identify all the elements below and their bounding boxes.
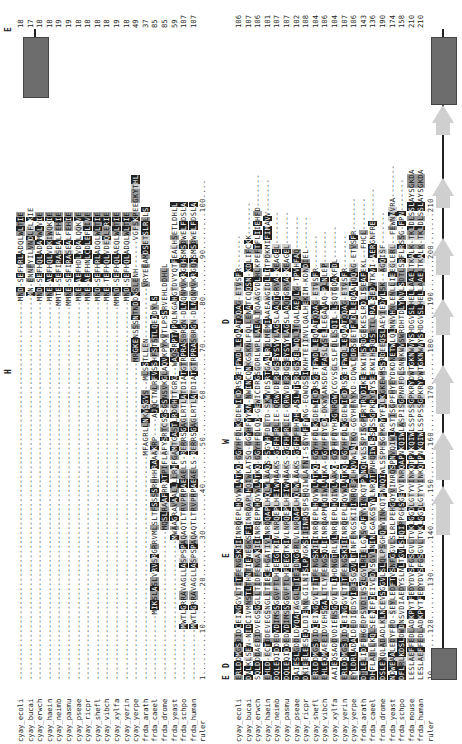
sequence-end-position: 19 (64, 2, 74, 28)
sequence-residues: ----------------------------------------… (93, 212, 103, 680)
sequence-row: frda_humanLESLAEFFEDLADKPYTFEDYDVSFGSGVL… (416, 0, 426, 744)
sequence-label: cyay_pasmu (64, 684, 74, 742)
sequence-residues: ----------------------------------------… (16, 212, 26, 680)
sequence-residues: EYLDRLADALDEDIGDSYIDESGGVLTINFENGSKIIINR… (349, 198, 359, 681)
sequence-row: cyay_haein------------------------------… (45, 0, 55, 744)
sequence-label: cyay_yerpe (131, 684, 141, 742)
sequence-residues: DAIESLGDDLDYQATAGGLLTIEFDNGGRLVLNRQAPLHQ… (292, 216, 302, 680)
sequence-label: frda_caeel (368, 684, 378, 742)
annotation-marker: D (222, 663, 231, 668)
sequence-label: frda_yeast (170, 684, 180, 742)
strand-arrow-head (432, 486, 454, 504)
sequence-label: frda_human (189, 684, 199, 742)
sequence-row: cyay_erwchSQLDDDAEDIDVEGSGGLLTIDFENGAKII… (253, 0, 263, 744)
sequence-end-position: 18 (16, 2, 26, 28)
sequence-residues: DSLEKQLADADLKLNCEVSGGVLSLQLPSGHQWVINKQTP… (378, 211, 388, 680)
sequence-residues: DTLELIDFDHGFDPSVDIVSGLGVLRIELGNSGAFYVINK… (359, 198, 369, 680)
residue-annotations: E D E W D (222, 0, 234, 744)
sequence-label: cyay_vibch (320, 684, 330, 742)
sequence-label: cyay_haein (263, 684, 273, 742)
annotation-marker: H (4, 369, 13, 374)
sequence-row: frda_caeel--------------MIKSLASLVRVSRGRR… (150, 0, 160, 744)
sequence-end-position: 18 (122, 2, 132, 28)
strand-arrow-shaft (436, 383, 450, 413)
sequence-end-position: 107 (272, 2, 282, 28)
sequence-label: cyay_ecoli (234, 684, 244, 742)
sequence-end-position: 107 (340, 2, 350, 28)
sequence-end-position: 59 (170, 2, 180, 28)
sequence-residues: ERLDDMGSDIDCEINGGVLTITFENGSKIIINRQEPLHQV… (340, 235, 350, 680)
strand-arrow-shaft (436, 450, 450, 480)
sequence-end-position: 190 (378, 2, 388, 28)
sequence-end-position: 104 (311, 2, 321, 28)
sequence-row: frda_dromeDSLEKQLADADLKLNCEVSGGVLSLQLPSG… (378, 0, 388, 744)
secondary-structure-track (428, 40, 458, 680)
sequence-residues: DNLKLSEN-NIDCIVMNSTLTHNTIENEGKSFIINRQAPL… (244, 202, 254, 680)
sequence-label: cyay_bucai (244, 684, 254, 742)
sequence-row: frda_human-----------MWTLGRRAVAGLLASPSPA… (189, 0, 199, 744)
sequence-residues: ----------------------------------------… (45, 212, 55, 680)
sequence-residues: ----------------------------------------… (122, 212, 132, 680)
sequence-row: cyay_neimbDQLEQIDDEDVDIMSSGGVFTLHFEEGTKI… (272, 0, 282, 744)
sequence-label: frda_human (416, 684, 426, 742)
annotation-marker: E (4, 27, 13, 32)
sequence-label: cyay_neimb (54, 684, 64, 742)
sequence-residues: EHLEQMAEEIDVEHSGALLTLYFENGSQLIINRQAPMHQI… (320, 230, 330, 680)
strand-arrow-head (432, 365, 454, 383)
sequence-label: frda_yeast (388, 684, 398, 742)
sequence-end-position: 174 (388, 2, 398, 28)
annotation-marker: E (222, 553, 231, 558)
sequence-row: cyay_vibchEHLEQMAEEIDVEHSGALLTLYFENGSQLI… (320, 0, 330, 744)
sequence-residues: DFLRLKDSLDWDNSVDIAEDYSLNLTGVLSIQIPPGHSGE… (397, 179, 407, 680)
sequence-residues: DHFLADLLKQLSEENEFDEIVCDVSGVLNINLGAKGSYVL… (368, 188, 378, 680)
sequence-row: cyay_yerpe------------------------------… (131, 0, 141, 744)
sequence-label: cyay_pseae (74, 684, 84, 742)
sequence-row: cyay_yerpeEYLDRLADALDEDIGDSYIDESGGVLTINF… (349, 0, 359, 744)
sequence-label: cyay_xylfa (112, 684, 122, 742)
sequence-row: cyay_pasmu------------------------------… (64, 0, 74, 744)
sequence-label: frda_arath (359, 684, 369, 742)
sequence-row: cyay_shefl------------------------------… (93, 0, 103, 744)
sequence-label: frda_drome (378, 684, 388, 742)
strand-arrow-head (432, 238, 454, 256)
sequence-residues: LESLAEFFEDLADKPYTFEDYDVSFGSGVLTVKLGGDLGT… (416, 169, 426, 680)
sequence-row: frda_yeast------------------------------… (170, 0, 180, 744)
sequence-residues: DQLEQIDDEDVDIMSSGGVFTLHFEEGTKIVLNRQEPLHE… (282, 211, 292, 680)
sequence-row: frda_schpo-----------MWTLGRRAVAGLLASPSPA… (179, 0, 189, 744)
ruler-row: ruler1.........10........20........30...… (198, 0, 208, 744)
sequence-label: frda_caeel (150, 684, 160, 742)
sequence-label: cyay_shefl (93, 684, 103, 742)
strand-arrow-head (432, 299, 454, 317)
sequence-label: cyay_vibch (102, 684, 112, 742)
sequence-residues: ----------------------------------------… (102, 212, 112, 680)
sequence-end-position: 37 (141, 2, 151, 28)
sequence-label: cyay_erwch (35, 684, 45, 742)
sequence-row: frda_caeelDHFLADLLKQLSEENEFDEIVCDVSGVLNI… (368, 0, 378, 744)
sequence-row: frda_drome------------------------------… (160, 0, 170, 744)
sequence-label: cyay_shefl (311, 684, 321, 742)
secondary-structure-track (20, 38, 50, 98)
sequence-label: cyay_bucai (26, 684, 36, 742)
annotation-marker: E (222, 675, 231, 680)
sequence-row: cyay_ricprDKIEELEESEQLDIENNLGILNISLPNGKS… (301, 0, 311, 744)
sequence-end-position: 49 (131, 2, 141, 28)
sequence-row: cyay_yerin------------------------------… (122, 0, 132, 744)
sequence-row: cyay_pasmuDQLEQIDDEDVDIMSSGGVFTLHFEEGTKI… (282, 0, 292, 744)
sequence-end-position: 19 (54, 2, 64, 28)
sequence-row: cyay_xylfaAAIEQSADDVDIENSGGVLTLIHDNGTRLV… (330, 0, 340, 744)
sequence-label: frda_arath (141, 684, 151, 742)
strand-arrow-head (432, 105, 454, 123)
sequence-label: cyay_pseae (292, 684, 302, 742)
sequence-row: frda_yeastNDWEAALEDYFPD-SEYLEDFTVSNFGGVL… (388, 0, 398, 744)
ruler-label: ruler (426, 684, 436, 742)
strand-arrow-head (432, 178, 454, 196)
sequence-end-position: 210 (416, 2, 426, 28)
sequence-label: cyay_xylfa (330, 684, 340, 742)
sequence-row: cyay_bucaiDNLKLSEN-NIDCIVMNSTLTHNTIENEGK… (244, 0, 254, 744)
strand-arrow-shaft (436, 504, 450, 534)
sequence-residues: DKIEELEESEQLDIENNLGILNISLPNGKSIIINRQSPSH… (301, 216, 311, 680)
sequence-label: frda_schpo (397, 684, 407, 742)
annotation-marker: D (222, 319, 231, 324)
sequence-end-position: 107 (189, 2, 199, 28)
sequence-label: frda_drome (160, 684, 170, 742)
